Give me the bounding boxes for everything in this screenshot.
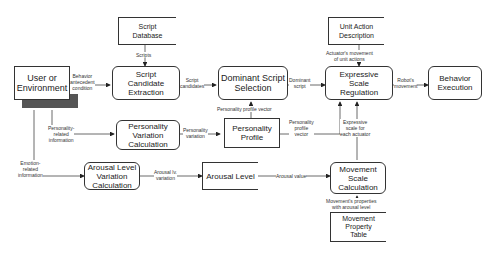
label-scripts: Scripts	[136, 52, 151, 58]
personality-profile-node: Personality Profile	[224, 118, 280, 148]
dominant-script-selection-node: Dominant Script Selection	[218, 66, 288, 100]
label-behavior-antecedent: Behavior antecedent condition	[70, 73, 95, 91]
label-robots-movement: Robot's movement	[394, 77, 417, 89]
movement-property-table-node: Movement Property Table	[330, 212, 386, 242]
label-personality-profile-vector-up: Personality profile vector	[217, 106, 272, 112]
label-dominant-script: Dominant script	[289, 77, 310, 89]
diagram-canvas: User or Environment Script Database Scri…	[0, 0, 486, 256]
arousal-level-node: Arousal Level	[202, 162, 258, 190]
personality-variation-calculation-node: Personality Variation Calculation	[116, 120, 180, 150]
script-database-node: Script Database	[118, 17, 176, 45]
label-movement-properties: Movement's properties with arousal level	[326, 198, 376, 210]
label-arousal-value: Arousal value	[276, 173, 306, 179]
behavior-execution-node: Behavior Execution	[428, 66, 482, 100]
label-personality-related: Personality- related information	[48, 125, 74, 143]
arousal-level-variation-calculation-node: Arousal Level Variation Calculation	[84, 162, 140, 190]
label-personality-variation: Personality variation	[183, 127, 208, 139]
label-script-candidates: Script candidates	[180, 77, 204, 89]
label-expressive-scale: Expressive scale for each actuator	[340, 119, 370, 137]
user-environment-node: User or Environment	[14, 66, 70, 100]
label-emotion-related: Emotion- related information	[18, 160, 43, 178]
label-personality-profile-vector-right: Personality profile vector	[289, 119, 314, 137]
unit-action-description-node: Unit Action Description	[328, 17, 384, 45]
script-candidate-extraction-node: Script Candidate Extraction	[112, 66, 180, 100]
label-arousal-lv-variation: Arousal lv. variation	[154, 169, 177, 181]
expressive-scale-regulation-node: Expressive Scale Regulation	[325, 66, 393, 100]
movement-scale-calculation-node: Movement Scale Calculation	[330, 162, 386, 194]
label-actuator-movement: Actuator's movement of unit actions	[326, 50, 373, 62]
